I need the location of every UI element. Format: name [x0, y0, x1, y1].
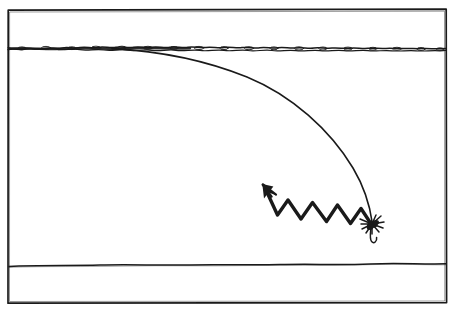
- fishing-diagram-svg: Underwater cross-section: sinking fishin…: [0, 0, 455, 311]
- illustration-canvas: Underwater cross-section: sinking fishin…: [0, 0, 455, 311]
